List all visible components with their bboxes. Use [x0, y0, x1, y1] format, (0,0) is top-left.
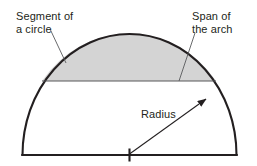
span-label-line-2: the arch	[192, 23, 233, 36]
span-of-the-arch-label: Span of the arch	[192, 10, 233, 36]
arch-diagram: Segment of a circle Span of the arch Rad…	[0, 0, 257, 166]
segment-of-a-circle-label: Segment of a circle	[16, 10, 73, 36]
circle-segment-shape	[42, 34, 216, 81]
segment-label-line-2: a circle	[16, 23, 73, 36]
segment-label-line-1: Segment of	[16, 10, 73, 23]
span-label-line-1: Span of	[192, 10, 233, 23]
radius-label: Radius	[141, 108, 176, 121]
